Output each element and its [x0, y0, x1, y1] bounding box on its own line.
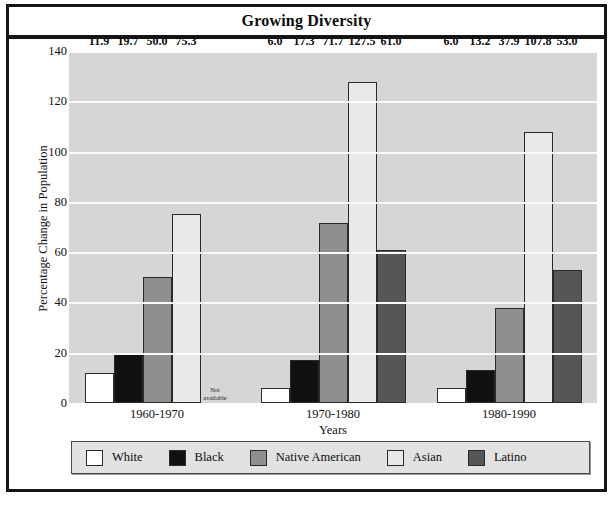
y-axis-tick-labels: 020406080100120140	[31, 39, 67, 399]
bar-value-label: 127.5	[349, 34, 376, 49]
bar-groups: 11.919.750.075.3Notavailable6.017.371.71…	[69, 51, 597, 403]
bar[interactable]: 11.9	[85, 373, 114, 403]
bar[interactable]: 37.9	[495, 308, 524, 403]
gridline	[69, 202, 597, 204]
bar-slot: 107.8	[524, 51, 553, 403]
chart-figure: Growing Diversity Percentage Change in P…	[6, 4, 607, 492]
chart-canvas: Percentage Change in Population 02040608…	[9, 39, 604, 489]
bar-value-label: 17.3	[294, 34, 315, 49]
legend-swatch	[387, 450, 404, 466]
bar-slot: 11.9	[85, 51, 114, 403]
bar[interactable]: 6.0	[437, 388, 466, 403]
bar[interactable]: 107.8	[524, 132, 553, 403]
bar[interactable]: 53.0	[553, 270, 582, 403]
bar-value-label: 50.0	[147, 34, 168, 49]
bar-slot: 37.9	[495, 51, 524, 403]
legend-swatch	[169, 450, 186, 466]
bar[interactable]: 6.0	[261, 388, 290, 403]
y-axis-tick: 20	[31, 345, 67, 360]
legend-label: Asian	[413, 450, 442, 465]
bar-slot: 71.7	[319, 51, 348, 403]
bar[interactable]: 19.7	[114, 353, 143, 403]
bar-slot: 6.0	[261, 51, 290, 403]
legend-label: Black	[195, 450, 224, 465]
bar-group: 11.919.750.075.3Notavailable	[69, 51, 245, 403]
x-axis-tick: 1980-1990	[421, 407, 597, 422]
x-axis-title: Years	[69, 423, 597, 438]
bar-value-label: 6.0	[268, 34, 283, 49]
x-axis-tick: 1970-1980	[245, 407, 421, 422]
legend-swatch	[250, 450, 267, 466]
bar-value-label: 75.3	[176, 34, 197, 49]
gridline	[69, 252, 597, 254]
caption-text	[8, 497, 608, 505]
bar[interactable]: 127.5	[348, 82, 377, 403]
legend-item[interactable]: Latino	[468, 450, 527, 466]
bar-slot: 61.0	[377, 51, 406, 403]
bar-slot: 127.5	[348, 51, 377, 403]
bar-slot: 75.3	[172, 51, 201, 403]
legend-item[interactable]: Native American	[250, 450, 361, 466]
bar-slot: 6.0	[437, 51, 466, 403]
caption-strip	[8, 497, 608, 505]
bar-slot: 19.7	[114, 51, 143, 403]
legend-label: White	[112, 450, 143, 465]
bar[interactable]: 61.0	[377, 250, 406, 403]
y-axis-tick: 140	[31, 44, 67, 59]
y-axis-tick: 40	[31, 295, 67, 310]
bar-slot: 17.3	[290, 51, 319, 403]
legend-item[interactable]: White	[86, 450, 143, 466]
gridline	[69, 51, 597, 53]
bar-value-label: 13.2	[470, 34, 491, 49]
gridline	[69, 353, 597, 355]
gridline	[69, 101, 597, 103]
bar-slot: Notavailable	[201, 51, 230, 403]
bar-group-bars: 11.919.750.075.3Notavailable	[69, 51, 245, 403]
bar[interactable]: 75.3	[172, 214, 201, 403]
legend-item[interactable]: Asian	[387, 450, 442, 466]
bar-group: 6.013.237.9107.853.0	[421, 51, 597, 403]
bar-value-label: 61.0	[381, 34, 402, 49]
legend-swatch	[468, 450, 485, 466]
bar-value-label: 107.8	[525, 34, 552, 49]
chart-legend: WhiteBlackNative AmericanAsianLatino	[71, 441, 590, 474]
y-axis-tick: 120	[31, 94, 67, 109]
y-axis-tick: 0	[31, 396, 67, 411]
legend-swatch	[86, 450, 103, 466]
bar-slot: 53.0	[553, 51, 582, 403]
y-axis-tick: 60	[31, 245, 67, 260]
x-axis-tick: 1960-1970	[69, 407, 245, 422]
bar-slot: 50.0	[143, 51, 172, 403]
bar-group-bars: 6.013.237.9107.853.0	[421, 51, 597, 403]
bar-group-bars: 6.017.371.7127.561.0	[245, 51, 421, 403]
bar[interactable]: 13.2	[466, 370, 495, 403]
bar[interactable]: 17.3	[290, 360, 319, 403]
gridline	[69, 152, 597, 154]
bar-value-label: 71.7	[323, 34, 344, 49]
bar-group: 6.017.371.7127.561.0	[245, 51, 421, 403]
bar-value-label: 37.9	[499, 34, 520, 49]
bar-value-label: 6.0	[444, 34, 459, 49]
x-axis-tick-labels: 1960-19701970-19801980-1990	[69, 407, 597, 422]
bar-value-label: 53.0	[557, 34, 578, 49]
legend-label: Latino	[494, 450, 527, 465]
page-title: Growing Diversity	[242, 12, 372, 30]
legend-label: Native American	[276, 450, 361, 465]
y-axis-tick: 80	[31, 194, 67, 209]
bar[interactable]: 71.7	[319, 223, 348, 403]
bar-not-available-note: Notavailable	[203, 386, 226, 401]
gridline	[69, 302, 597, 304]
legend-item[interactable]: Black	[169, 450, 224, 466]
bar[interactable]: 50.0	[143, 277, 172, 403]
y-axis-tick: 100	[31, 144, 67, 159]
plot-area: 11.919.750.075.3Notavailable6.017.371.71…	[69, 51, 597, 403]
bar-slot: 13.2	[466, 51, 495, 403]
bar-value-label: 19.7	[118, 34, 139, 49]
bar-value-label: 11.9	[89, 34, 109, 49]
